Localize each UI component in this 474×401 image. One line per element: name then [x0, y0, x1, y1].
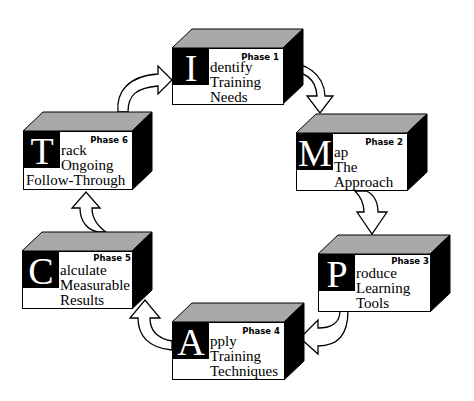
arrow-5-to-6-icon	[72, 192, 106, 232]
text-line-3: Follow-Through	[26, 172, 125, 189]
initial-letter: A	[173, 323, 209, 359]
phase-2-box: M Phase 2 ap The Approach	[296, 114, 428, 192]
front-face: I Phase 1 dentify Training Needs	[172, 48, 284, 105]
initial-letter: C	[23, 252, 59, 288]
phase-label: Phase 6	[90, 135, 128, 145]
text-line-3: Needs	[210, 89, 248, 106]
front-face: T Phase 6 rack Ongoing Follow-Through	[23, 131, 133, 190]
initial-letter: M	[297, 134, 333, 170]
text-line-3: Results	[60, 292, 104, 309]
phase-label: Phase 4	[242, 326, 280, 336]
initial-letter: T	[24, 132, 60, 168]
front-face: M Phase 2 ap The Approach	[296, 133, 408, 191]
phase-4-box: A Phase 4 pply Training Techniques	[172, 303, 305, 381]
text-line-3: Tools	[356, 295, 389, 312]
arrow-2-to-3-icon	[355, 191, 387, 234]
phase-3-box: P Phase 3 roduce Learning Tools	[318, 235, 451, 313]
phase-6-box: T Phase 6 rack Ongoing Follow-Through	[23, 112, 153, 191]
text-line-3: Approach	[334, 174, 393, 191]
phase-label: Phase 2	[365, 137, 403, 147]
phase-5-box: C Phase 5 alculate Measurable Results	[22, 232, 153, 310]
initial-letter: I	[173, 49, 209, 85]
initial-letter: P	[319, 255, 355, 291]
text-line-3: Techniques	[210, 363, 278, 380]
front-face: C Phase 5 alculate Measurable Results	[22, 251, 133, 309]
phase-1-box: I Phase 1 dentify Training Needs	[172, 29, 304, 105]
front-face: A Phase 4 pply Training Techniques	[172, 322, 285, 380]
arrow-3-to-4-icon	[300, 311, 348, 354]
front-face: P Phase 3 roduce Learning Tools	[318, 254, 431, 312]
impact-cycle-diagram: I Phase 1 dentify Training Needs M Phase…	[0, 0, 474, 401]
arrow-6-to-1-icon	[118, 66, 172, 112]
